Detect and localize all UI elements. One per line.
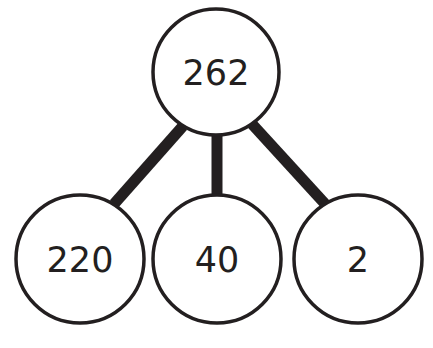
child-node-left: 220 xyxy=(16,195,144,323)
root-node-label: 262 xyxy=(183,53,250,93)
diagram-canvas: 262 220 40 2 xyxy=(0,0,433,348)
child-node-right: 2 xyxy=(294,195,422,323)
child-node-middle-label: 40 xyxy=(195,240,240,280)
child-node-right-label: 2 xyxy=(347,240,369,280)
connector-root-to-left xyxy=(114,126,183,204)
child-node-left-label: 220 xyxy=(47,240,114,280)
number-bond-diagram: 262 220 40 2 xyxy=(0,0,433,348)
root-node: 262 xyxy=(153,9,279,135)
child-node-middle: 40 xyxy=(153,195,281,323)
connector-root-to-right xyxy=(252,124,327,206)
